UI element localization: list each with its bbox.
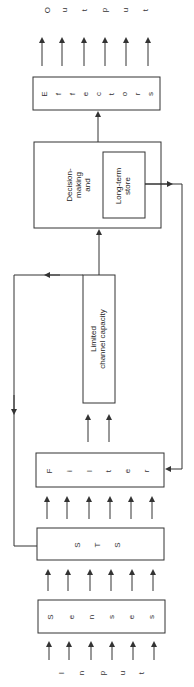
decision-making-label: Decision- making and <box>65 155 95 215</box>
decision-line: and <box>83 155 92 215</box>
effectors-letter: f <box>54 89 64 99</box>
effectors-letter: e <box>81 89 91 99</box>
senses-letter: s <box>147 612 157 622</box>
output-letter: t <box>80 5 90 15</box>
filter-letter: i <box>65 466 75 476</box>
input-letter: n <box>77 668 87 678</box>
effectors-letter: f <box>68 89 78 99</box>
senses-letter: S <box>46 612 56 622</box>
filter-letter: r <box>142 466 152 476</box>
input-letter: t <box>137 668 147 678</box>
output-letter: u <box>60 5 70 15</box>
sts-letter: T <box>93 540 103 550</box>
effectors-letter: E <box>40 89 50 99</box>
filter-letter: e <box>123 466 133 476</box>
effectors-letter: s <box>146 89 156 99</box>
output-letter: O <box>43 5 53 15</box>
long-term-store-label: Long-term store <box>114 156 134 216</box>
output-letter: t <box>141 5 151 15</box>
sts-letter: S <box>113 540 123 550</box>
input-letter: u <box>118 668 128 678</box>
filter-letter: l <box>85 466 95 476</box>
channel-line: Limited <box>89 299 98 379</box>
output-letter: u <box>121 5 131 15</box>
store-line: Long-term <box>114 156 123 216</box>
limited-channel-label: Limited channel capacity <box>89 299 109 379</box>
effectors-letter: r <box>133 89 143 99</box>
senses-letter: e <box>127 612 137 622</box>
filter-letter: F <box>45 466 55 476</box>
senses-letter: n <box>87 612 97 622</box>
decision-line: making <box>74 155 83 215</box>
senses-letter: s <box>107 612 117 622</box>
effectors-letter: t <box>107 89 117 99</box>
decision-line: Decision- <box>65 155 74 215</box>
input-letter: p <box>98 668 108 678</box>
channel-line: channel capacity <box>98 299 107 379</box>
filter-letter: t <box>104 466 114 476</box>
output-letter: p <box>100 5 110 15</box>
input-letter: I <box>57 668 67 678</box>
store-line: store <box>123 156 132 216</box>
effectors-letter: c <box>94 89 104 99</box>
effectors-letter: o <box>120 89 130 99</box>
sts-letter: S <box>73 540 83 550</box>
senses-letter: e <box>67 612 77 622</box>
